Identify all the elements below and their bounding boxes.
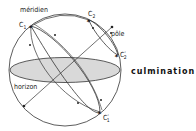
motion-marker (77, 102, 79, 104)
star-c1-icon: ✶ (28, 24, 33, 30)
horizon-plane (10, 58, 120, 83)
north-pole-point (111, 26, 114, 29)
celestial-sphere-diagram: ✶ ✶ ✶ ✶ méridien pôle horizon C1 C2 C'2 … (0, 0, 196, 131)
motion-marker (29, 44, 31, 46)
pole-label: pôle (111, 30, 125, 38)
star-c2p-icon: ✶ (114, 53, 119, 59)
c2-prime-label: C'2 (120, 50, 127, 60)
star-c1p-icon: ✶ (97, 110, 102, 116)
c2-label: C2 (88, 10, 95, 19)
c1-label: C1 (19, 21, 26, 30)
meridian-arc (31, 15, 89, 26)
diagram-title: culmination (131, 67, 195, 76)
c1-prime-label: C'1 (103, 113, 110, 123)
motion-marker (54, 34, 56, 36)
meridian-label: méridien (20, 6, 48, 14)
horizon-label: horizon (14, 83, 37, 91)
star-c2-icon: ✶ (86, 18, 91, 24)
motion-marker (100, 99, 102, 101)
south-pole-point (23, 105, 26, 108)
motion-marker (92, 27, 94, 29)
